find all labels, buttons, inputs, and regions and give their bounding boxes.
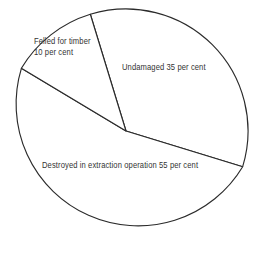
pie-label-undamaged: Undamaged 35 per cent [122,63,206,74]
pie-label-felled-line-2: 10 per cent [34,48,91,59]
pie-chart-figure: Felled for timber 10 per cent Undamaged … [0,0,253,260]
pie-label-destroyed: Destroyed in extraction operation 55 per… [42,161,198,172]
pie-label-felled-for-timber: Felled for timber 10 per cent [34,37,91,58]
pie-label-felled-line-1: Felled for timber [34,37,91,48]
